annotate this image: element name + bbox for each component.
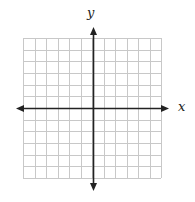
x-axis-right-arrow-icon	[161, 105, 169, 112]
x-axis-label: x	[178, 100, 185, 113]
y-axis-down-arrow-icon	[90, 183, 97, 191]
x-axis-left-arrow-icon	[16, 105, 24, 112]
y-axis-up-arrow-icon	[90, 27, 97, 35]
y-axis-label: y	[87, 6, 94, 19]
coordinate-plane	[0, 0, 195, 202]
